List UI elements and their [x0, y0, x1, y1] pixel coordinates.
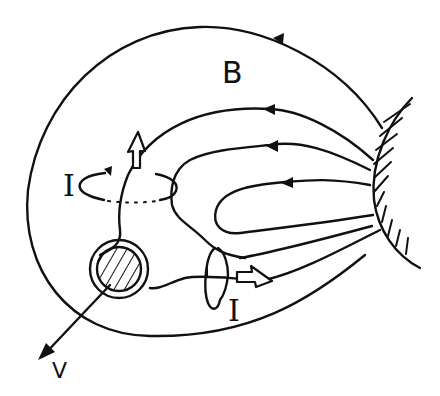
current-loop-upper-hidden: [108, 201, 158, 203]
hollow-arrow-up: [128, 132, 145, 168]
current-label-lower: I: [228, 293, 240, 328]
hatched-body: [97, 247, 141, 291]
hollow-arrow-right: [237, 266, 272, 287]
current-label-upper: I: [63, 168, 75, 203]
field-line-4: [215, 180, 373, 233]
arrow-head-icon: [104, 166, 112, 176]
field-label: B: [222, 55, 243, 90]
field-line-3: [171, 144, 370, 258]
arrow-head-icon: [266, 140, 278, 152]
velocity-label: V: [52, 358, 67, 383]
arrow-head-icon: [263, 104, 275, 115]
velocity-vector: [42, 285, 110, 357]
arrow-head-icon: [281, 177, 293, 188]
